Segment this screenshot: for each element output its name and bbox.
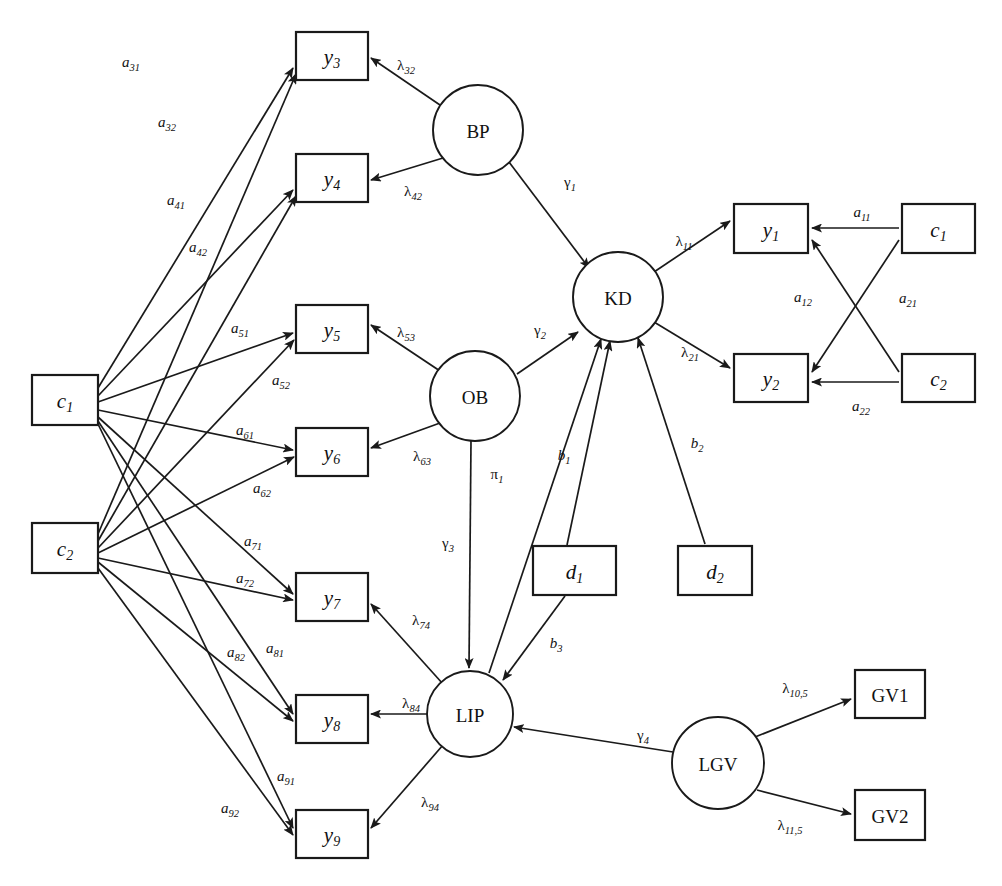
edge-label-subscript: 42: [197, 246, 208, 257]
edge-label-lam63: λ63: [413, 448, 431, 466]
edge-label-a12: a12: [794, 289, 813, 307]
box-label-subscript: 1: [576, 570, 583, 585]
edge-label-subscript: 51: [239, 327, 250, 338]
edge-label-a82: a82: [227, 644, 246, 662]
edge-a91: [98, 424, 293, 828]
edge-label-subscript: 52: [280, 379, 291, 390]
box-label-base: y: [322, 708, 334, 732]
edge-label-a21: a21: [899, 290, 917, 308]
box-label-subscript: 2: [772, 378, 779, 393]
edge-a41: [98, 190, 293, 396]
node-circle-OB: OB: [430, 351, 520, 441]
circle-label: LIP: [456, 705, 485, 726]
edge-label-base: a: [853, 204, 861, 220]
edge-lam94: [371, 745, 443, 828]
edge-label-base: a: [244, 533, 252, 549]
edge-label-a52: a52: [272, 372, 291, 390]
edge-label-lam84: λ84: [402, 695, 421, 713]
box-label-subscript: 3: [332, 56, 340, 71]
sem-path-diagram: y3y4y5y6y7y8y9y1y2c1c2c1c2d1d2GV1GV2BPKD…: [0, 0, 1002, 886]
edge-label-subscript: 31: [129, 61, 141, 72]
edge-b1: [567, 341, 610, 545]
edge-label-subscript: 1: [498, 473, 503, 484]
box-label-base: y: [322, 318, 334, 342]
edge-label-subscript: 72: [244, 577, 255, 588]
edge-a72: [98, 558, 293, 600]
box-label-subscript: 9: [333, 834, 340, 849]
edge-label-subscript: 11: [861, 211, 871, 222]
edge-label-subscript: 32: [403, 64, 415, 75]
edge-label-subscript: 10,5: [789, 687, 807, 698]
edge-label-gam3: γ3: [441, 535, 454, 553]
box-label: GV2: [872, 806, 909, 827]
edge-label-a72: a72: [236, 570, 255, 588]
node-box-y1: y1: [734, 204, 808, 253]
edge-label-a32: a32: [158, 114, 177, 132]
node-box-d1: d1: [533, 546, 616, 595]
edge-label-subscript: 82: [235, 651, 246, 662]
edge-label-base: a: [266, 640, 274, 656]
box-label-base: y: [322, 441, 334, 465]
edge-label-base: a: [227, 644, 235, 660]
edge-label-a51: a51: [231, 320, 249, 338]
edge-lam74: [371, 604, 443, 684]
edge-label-subscript: 63: [420, 455, 431, 466]
edge-label-a81: a81: [266, 640, 284, 658]
box-label-base: d: [566, 560, 577, 584]
diagram-canvas: y3y4y5y6y7y8y9y1y2c1c2c1c2d1d2GV1GV2BPKD…: [0, 0, 1002, 886]
edge-label-lam94: λ94: [421, 794, 440, 812]
edge-label-subscript: 11: [683, 240, 693, 251]
edge-gam4: [514, 727, 673, 752]
edge-label-base: a: [231, 320, 239, 336]
edge-label-subscript: 32: [165, 121, 177, 132]
edge-label-subscript: 21: [907, 297, 918, 308]
node-box-y9: y9: [296, 810, 368, 858]
edge-label-subscript: 1: [571, 181, 576, 192]
box-label-base: y: [322, 167, 334, 191]
box-label: GV1: [872, 685, 909, 706]
edge-label-a11: a11: [853, 204, 870, 222]
edge-gam2: [517, 332, 578, 374]
box-label-base: y: [761, 218, 773, 242]
edge-lam42: [371, 158, 443, 180]
edge-label-a31: a31: [122, 54, 140, 72]
node-box-c2right: c2: [902, 354, 975, 402]
edge-label-base: a: [272, 372, 280, 388]
edge-label-base: a: [122, 54, 130, 70]
node-layer: y3y4y5y6y7y8y9y1y2c1c2c1c2d1d2GV1GV2BPKD…: [32, 32, 975, 858]
edge-label-lam11: λ11: [675, 233, 692, 251]
edge-label-lam53: λ53: [397, 324, 415, 342]
edge-label-layer: a31a32a41a42a51a52a61a62a71a72a81a82a91a…: [122, 54, 917, 835]
edge-label-subscript: 12: [802, 296, 813, 307]
box-label-base: GV1: [872, 685, 909, 706]
edge-label-lam32: λ32: [397, 57, 416, 75]
edge-label-subscript: 61: [244, 429, 255, 440]
box-label-subscript: 6: [333, 452, 340, 467]
edge-label-a41: a41: [167, 192, 185, 210]
edge-label-subscript: 81: [274, 647, 285, 658]
edge-label-subscript: 4: [644, 734, 650, 745]
edge-lam105: [755, 699, 851, 737]
box-label-base: y: [322, 586, 334, 610]
edge-label-base: a: [167, 192, 175, 208]
edge-label-subscript: 53: [404, 331, 415, 342]
edge-label-a61: a61: [236, 422, 254, 440]
circle-label: BP: [466, 121, 489, 142]
edge-label-subscript: 3: [556, 642, 562, 653]
edge-label-subscript: 62: [261, 487, 272, 498]
edge-label-subscript: 92: [229, 807, 240, 818]
edge-label-gam1: γ1: [563, 174, 576, 192]
edge-label-b1: b1: [558, 447, 571, 465]
edge-label-subscript: 3: [448, 542, 454, 553]
edge-label-subscript: 94: [428, 801, 439, 812]
box-label-base: GV2: [872, 806, 909, 827]
node-box-y7: y7: [296, 573, 368, 621]
edge-lam63: [371, 423, 440, 448]
edge-label-lam105: λ10,5: [782, 680, 808, 698]
node-box-d2: d2: [678, 546, 752, 595]
edge-label-a62: a62: [253, 480, 272, 498]
box-label-subscript: 1: [772, 228, 779, 243]
circle-label: OB: [462, 387, 488, 408]
node-box-c1left: c1: [32, 375, 98, 425]
edge-label-gam2: γ2: [533, 322, 547, 340]
